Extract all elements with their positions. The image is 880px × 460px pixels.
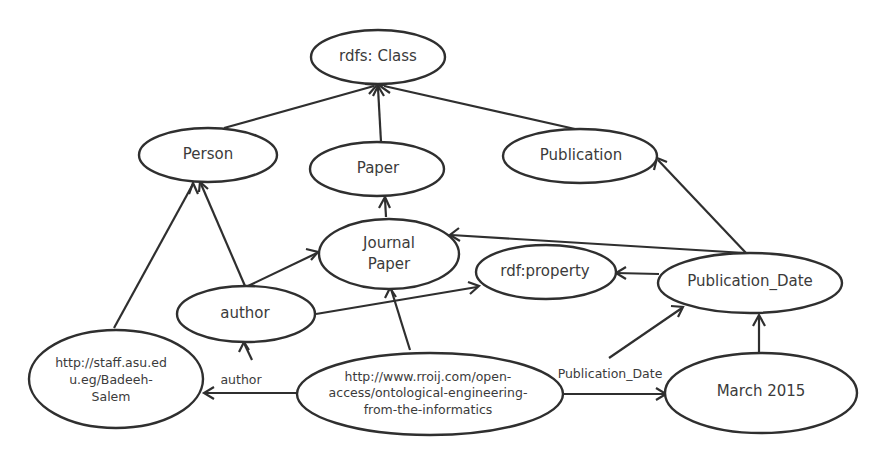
node-label-author: author <box>220 305 269 323</box>
edge-publication-to-rdfs-class <box>384 86 575 129</box>
node-label-rdf-property: rdf:property <box>500 263 589 281</box>
node-label-badeeh-salem-uri: http://staff.asu.ed u.eg/Badeeh- Salem <box>55 355 167 406</box>
node-label-publication-date: Publication_Date <box>687 273 813 291</box>
edge-person-to-rdfs-class <box>224 86 374 128</box>
edge-label-author: author <box>220 372 261 387</box>
edge-paper-to-rdfs-class <box>378 88 381 142</box>
edge-label-publication-date: Publication_Date <box>558 366 663 381</box>
node-label-person: Person <box>183 146 233 164</box>
edge-author-to-journal-paper <box>248 253 317 286</box>
edge-author-to-person <box>201 184 245 286</box>
edge-publication-date-to-rdf-property <box>616 273 659 274</box>
edge-publication-date-to-publication <box>658 160 746 253</box>
node-label-journal-paper: Journal Paper <box>363 233 415 275</box>
node-label-rdfs-class: rdfs: Class <box>339 48 417 66</box>
node-label-publication: Publication <box>540 147 622 165</box>
node-label-march-2015: March 2015 <box>717 383 806 401</box>
node-label-rroij-uri: http://www.rroij.com/open- access/ontolo… <box>329 369 528 418</box>
edge-journal-paper-to-paper <box>385 199 386 217</box>
edge-publication-date-label-pointer <box>609 308 682 358</box>
node-label-paper: Paper <box>357 160 399 178</box>
arrowhead-icon <box>189 84 765 400</box>
edge-publication-date-to-journal-paper <box>451 235 745 253</box>
